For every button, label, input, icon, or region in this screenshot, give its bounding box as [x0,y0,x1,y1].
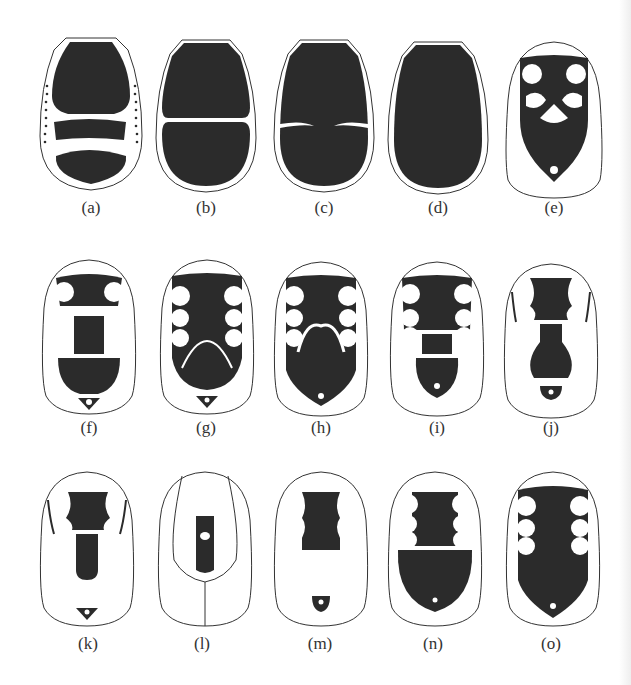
panel-m-label: (m) [280,634,360,654]
panel-k-diagram [36,470,138,626]
panel-b-diagram [154,38,258,194]
panel-e-label: (e) [514,198,594,218]
panel-c-diagram [272,38,376,194]
panel-j-label: (j) [511,418,591,438]
panel-h-label: (h) [281,418,361,438]
panel-l-diagram [154,470,256,626]
panel-b-label: (b) [166,198,246,218]
panel-f-label: (f) [49,418,129,438]
panel-a-diagram [38,36,144,192]
panel-c-label: (c) [284,198,364,218]
panel-g-label: (g) [166,418,246,438]
panel-g-diagram [156,258,258,414]
panel-k-label: (k) [48,634,128,654]
panel-i-diagram [386,260,488,416]
panel-o-label: (o) [511,634,591,654]
panel-j-diagram [500,262,602,418]
panel-n-label: (n) [393,634,473,654]
panel-f-diagram [38,258,140,414]
panel-a-label: (a) [51,198,131,218]
panel-h-diagram [270,260,372,416]
panel-n-diagram [384,470,486,626]
panel-d-label: (d) [398,198,478,218]
page-edge-shadow [619,0,631,685]
panel-e-diagram [504,40,604,200]
panel-o-diagram [502,470,604,626]
panel-l-label: (l) [162,634,242,654]
panel-m-diagram [270,470,372,626]
panel-d-diagram [386,40,490,196]
panel-i-label: (i) [397,418,477,438]
